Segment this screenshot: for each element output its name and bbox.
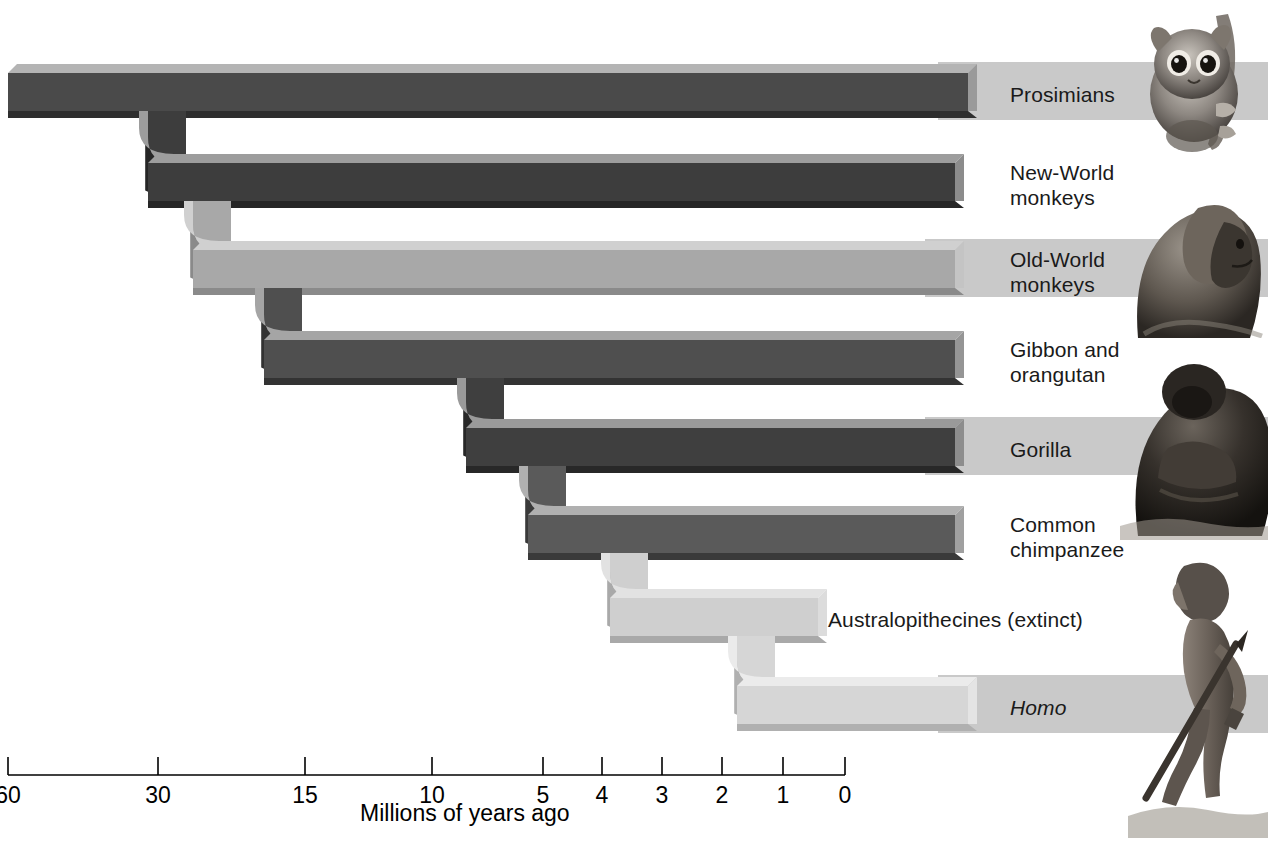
branch-label-homo: Homo [1010,695,1066,720]
bar-shadow [148,201,964,208]
illustration-art-baboon [1128,160,1268,338]
bar-top-bevel [737,677,977,686]
bar-face [528,515,955,553]
branch-gorilla [457,378,964,473]
bar-face [610,598,818,636]
branch-australopithecines [601,553,827,643]
branch-gibbon-orangutan [255,288,964,385]
illustration-gorilla-photo [1120,340,1268,540]
illustration-art-hominid [1128,548,1268,838]
bar-face [466,428,955,466]
branch-label-gibbon-orangutan: Gibbon and orangutan [1010,337,1120,387]
bar-face [737,686,968,724]
branch-common-chimpanzee [519,466,964,560]
branch-label-prosimians: Prosimians [1010,82,1115,107]
bar-face [8,73,968,111]
illustration-baboon [1128,160,1268,338]
branch-homo [728,636,977,731]
bar-top-bevel [264,331,964,340]
bar-shadow [264,378,964,385]
bar-top-bevel [193,241,964,250]
branch-new-world-monkeys [139,111,964,208]
branch-old-world-monkeys [184,201,964,295]
bar-shadow [193,288,964,295]
bar-shadow [610,636,827,643]
bar-face [264,340,955,378]
branch-label-gorilla: Gorilla [1010,437,1071,462]
branch-label-old-world-monkeys: Old-World monkeys [1010,247,1105,297]
evolutionary-tree-diagram [0,0,1268,842]
bar-face [148,163,955,201]
bar-top-bevel [466,419,964,428]
branch-label-common-chimpanzee: Common chimpanzee [1010,512,1124,562]
illustration-tarsier [1132,8,1268,156]
illustration-hominid [1128,548,1268,838]
bar-top-bevel [610,589,827,598]
branch-prosimians [8,64,977,118]
bar-face [193,250,955,288]
bar-shadow [737,724,977,731]
branch-label-australopithecines: Australopithecines (extinct) [828,607,1083,632]
illustration-art-tarsier [1132,8,1268,156]
branch-label-new-world-monkeys: New-World monkeys [1010,160,1114,210]
bar-top-bevel [148,154,964,163]
bar-top-bevel [528,506,964,515]
bar-top-bevel [8,64,977,73]
illustration-art-gorilla-photo [1120,340,1268,540]
bar-shadow [528,553,964,560]
figure-canvas: ProsimiansNew-World monkeysOld-World mon… [0,0,1268,842]
